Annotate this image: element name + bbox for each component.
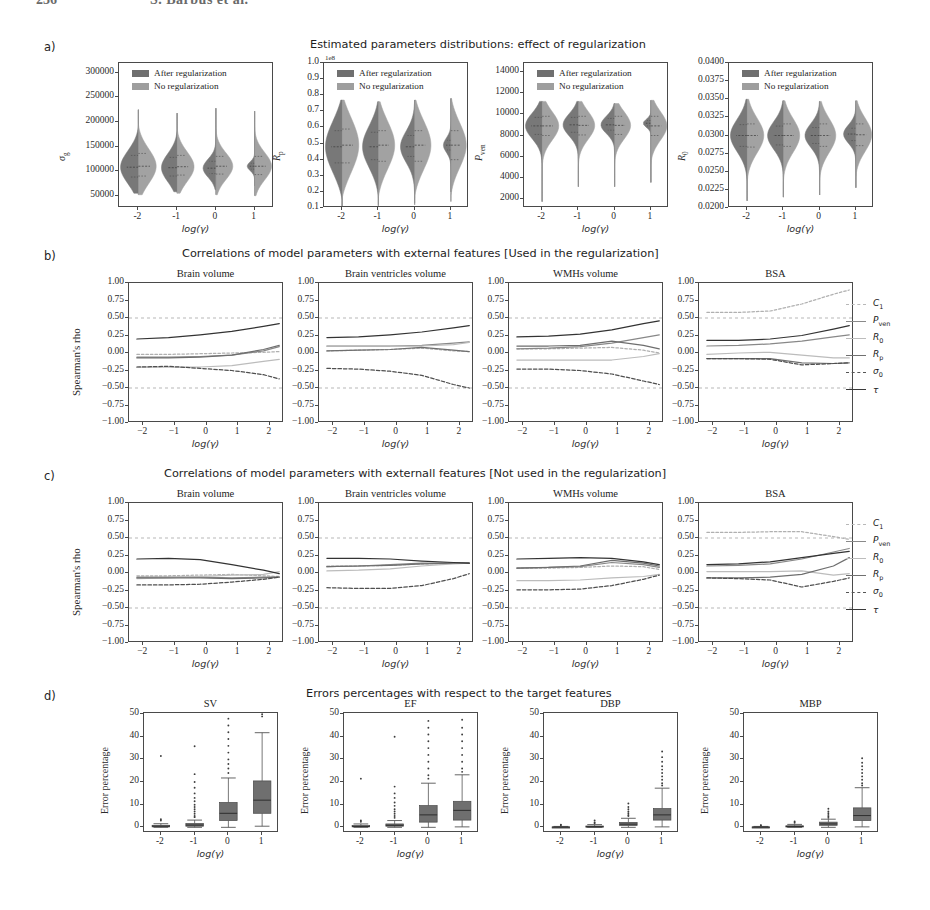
x-tick-mark — [577, 207, 578, 210]
y-tick-mark — [740, 736, 743, 737]
y-tick-mark — [140, 736, 143, 737]
x-tick-label: -1 — [768, 211, 796, 221]
x-tick-mark — [649, 422, 650, 425]
y-tick-label: 1.00 — [466, 496, 504, 506]
y-tick-label: 0.50 — [656, 531, 694, 541]
x-axis-label: log(γ) — [698, 438, 853, 449]
x-tick-label: -1 — [162, 211, 190, 221]
y-tick-mark — [695, 335, 698, 336]
y-tick-mark — [695, 387, 698, 388]
y-tick-label: 0 — [715, 820, 739, 830]
y-tick-mark — [320, 159, 323, 160]
figure-page: 256 S. Barbus et al. a) Estimated parame… — [0, 0, 930, 910]
x-tick-label: −1 — [732, 646, 756, 656]
line-legend-c: C1PvenR0Rpσ0τ — [846, 516, 890, 618]
legend-label-after: After regularization — [154, 68, 227, 78]
y-tick-mark — [725, 207, 728, 208]
x-tick-mark — [827, 832, 828, 835]
x-tick-mark — [650, 207, 651, 210]
x-axis-label: log(γ) — [143, 848, 278, 859]
legend-label: R0 — [873, 332, 883, 345]
y-tick-mark — [505, 590, 508, 591]
y-tick-label: 0.2 — [267, 185, 319, 195]
y-tick-label: 0.9 — [267, 72, 319, 82]
legend-swatch-none — [132, 83, 149, 90]
y-tick-mark — [320, 78, 323, 79]
x-tick-label: −1 — [162, 646, 186, 656]
legend-label: τ — [873, 385, 878, 395]
y-tick-mark — [695, 537, 698, 538]
y-tick-mark — [125, 300, 128, 301]
y-tick-label: 0.1 — [267, 201, 319, 211]
y-tick-mark — [540, 736, 543, 737]
legend-item-0: C1 — [846, 516, 890, 533]
panel-title: Brain volume — [128, 488, 283, 499]
x-tick-mark — [194, 832, 195, 835]
legend-item-after: After regularization — [132, 68, 227, 78]
x-tick-label: 2 — [447, 646, 471, 656]
x-tick-label: 1 — [415, 646, 439, 656]
x-tick-mark — [332, 422, 333, 425]
legend-label-after: After regularization — [559, 68, 632, 78]
x-tick-label: 2 — [637, 646, 661, 656]
x-tick-label: 1 — [636, 211, 664, 221]
legend-item-none: No regularization — [742, 81, 837, 91]
y-tick-label: 30 — [515, 752, 539, 762]
x-axis-label: log(γ) — [728, 223, 873, 234]
y-tick-mark — [520, 156, 523, 157]
x-tick-mark — [461, 832, 462, 835]
legend-swatch-none — [742, 83, 759, 90]
violin-legend: After regularizationNo regularization — [537, 68, 632, 94]
x-tick-label: 1 — [841, 211, 869, 221]
y-tick-mark — [320, 191, 323, 192]
legend-item-4: σ0 — [846, 584, 890, 601]
panel-title: BSA — [698, 488, 853, 499]
y-tick-label: −0.75 — [466, 619, 504, 629]
x-tick-label: 1 — [795, 426, 819, 436]
y-tick-label: 0.3 — [267, 169, 319, 179]
y-tick-label: 1.00 — [466, 276, 504, 286]
y-tick-mark — [725, 116, 728, 117]
x-tick-mark — [427, 422, 428, 425]
x-tick-label: −1 — [352, 646, 376, 656]
box-plot-2 — [543, 712, 678, 832]
y-tick-mark — [695, 422, 698, 423]
y-axis-label: Rp — [271, 151, 285, 161]
x-tick-label: 0 — [805, 211, 833, 221]
y-tick-mark — [315, 502, 318, 503]
row-a-suptitle: Estimated parameters distributions: effe… — [310, 38, 646, 51]
y-tick-label: 4000 — [467, 171, 519, 181]
y-tick-mark — [315, 642, 318, 643]
y-tick-label: 10 — [315, 798, 339, 808]
y-tick-mark — [315, 405, 318, 406]
x-tick-label: −2 — [510, 646, 534, 656]
y-tick-mark — [320, 175, 323, 176]
x-tick-label: −2 — [510, 426, 534, 436]
y-tick-label: −1.00 — [656, 416, 694, 426]
x-tick-mark — [364, 642, 365, 645]
x-tick-mark — [396, 422, 397, 425]
x-tick-label: 0 — [815, 836, 839, 846]
y-tick-mark — [125, 352, 128, 353]
x-axis-label: log(γ) — [508, 658, 663, 669]
y-tick-mark — [695, 352, 698, 353]
panel-title: EF — [343, 698, 478, 709]
x-tick-mark — [614, 207, 615, 210]
y-tick-label: 0.50 — [466, 311, 504, 321]
x-tick-label: 0 — [574, 646, 598, 656]
y-tick-mark — [125, 405, 128, 406]
legend-item-after: After regularization — [337, 68, 432, 78]
y-tick-label: 0.25 — [656, 549, 694, 559]
y-axis-label: Pven — [473, 144, 487, 161]
x-tick-label: −1 — [162, 426, 186, 436]
y-tick-label: 0.0400 — [672, 56, 724, 66]
y-tick-mark — [725, 189, 728, 190]
x-tick-label: 2 — [257, 426, 281, 436]
y-tick-label: 0.75 — [86, 514, 124, 524]
x-axis-label: log(γ) — [743, 848, 878, 859]
box-plot-1 — [343, 712, 478, 832]
y-tick-mark — [315, 335, 318, 336]
x-tick-label: −2 — [700, 646, 724, 656]
y-tick-mark — [140, 781, 143, 782]
y-tick-mark — [125, 537, 128, 538]
